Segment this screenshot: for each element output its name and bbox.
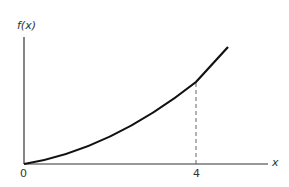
origin-label: 0 (20, 168, 27, 179)
y-axis-label: f(x) (17, 20, 36, 31)
x-axis-label: x (272, 157, 279, 168)
chart-plot (0, 0, 289, 187)
tick-label-4: 4 (193, 168, 200, 179)
function-curve (24, 47, 228, 164)
